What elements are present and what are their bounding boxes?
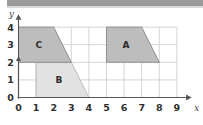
shape-label-a: A (122, 40, 129, 50)
x-axis-arrow (186, 95, 192, 101)
coordinate-figure: 0123456789 01234 ABC x y (0, 0, 203, 125)
shape-label-b: B (56, 75, 63, 85)
y-axis-label: y (8, 9, 14, 19)
coordinate-plot: 0123456789 01234 ABC x y (0, 0, 203, 125)
y-tick-label: 0 (7, 92, 14, 103)
y-axis-arrow (16, 14, 22, 20)
x-tick-label: 0 (15, 102, 22, 113)
y-tick-labels: 01234 (7, 22, 14, 103)
y-tick-label: 1 (7, 74, 14, 85)
x-tick-label: 2 (50, 102, 57, 113)
y-tick-label: 4 (7, 22, 14, 33)
shape-label-c: C (35, 40, 42, 50)
x-tick-labels: 0123456789 (15, 102, 180, 113)
x-tick-label: 3 (68, 102, 75, 113)
x-tick-label: 9 (174, 102, 181, 113)
x-tick-label: 4 (86, 102, 93, 113)
y-tick-label: 2 (7, 57, 14, 68)
y-tick-label: 3 (7, 39, 14, 50)
x-axis-label: x (194, 103, 199, 113)
x-tick-label: 8 (156, 102, 163, 113)
x-tick-label: 6 (121, 102, 128, 113)
x-tick-label: 5 (103, 102, 110, 113)
x-tick-label: 7 (138, 102, 145, 113)
x-tick-label: 1 (33, 102, 40, 113)
